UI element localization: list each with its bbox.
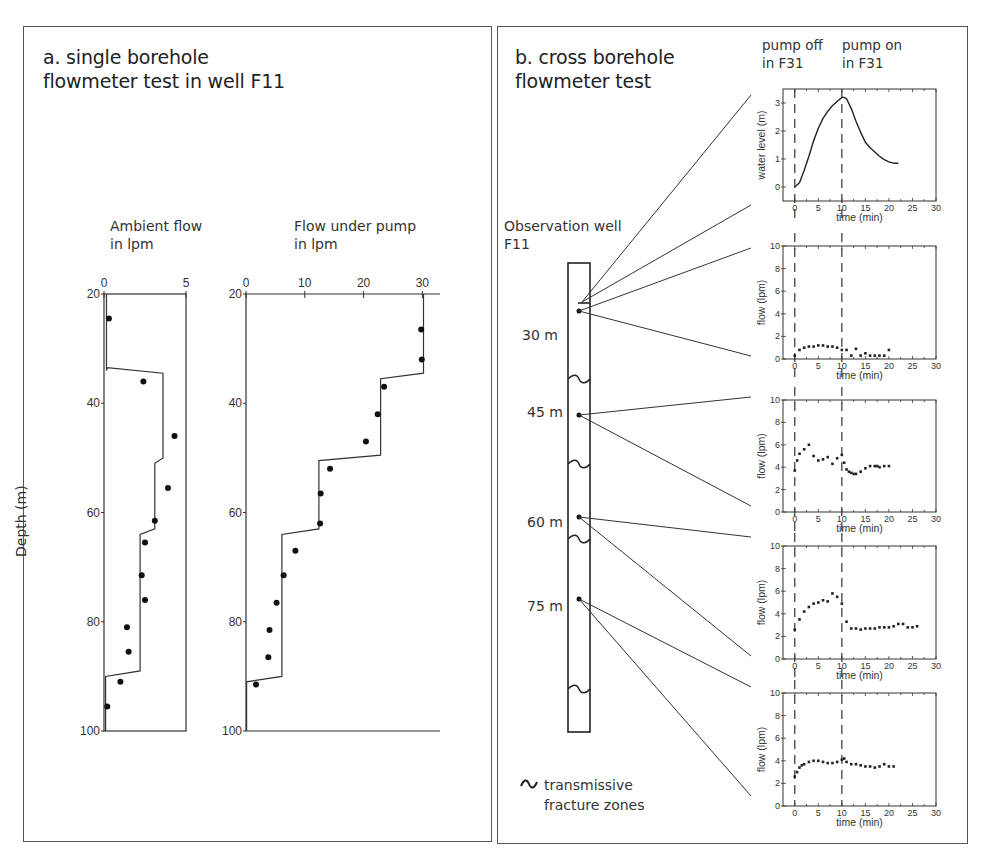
svg-text:4: 4 [775,609,780,619]
svg-text:10: 10 [770,241,780,251]
svg-text:0: 0 [775,182,780,192]
svg-text:100: 100 [80,724,100,738]
svg-text:25: 25 [907,808,917,818]
svg-text:60: 60 [87,506,101,520]
svg-text:5: 5 [816,203,821,213]
svg-text:4: 4 [775,309,780,319]
svg-text:25: 25 [907,514,917,524]
wave-icon [521,780,537,787]
svg-text:0: 0 [792,808,797,818]
figure-plots: 0520406080100 010203020406080100 0510152… [0,0,986,867]
svg-text:4: 4 [775,756,780,766]
svg-text:10: 10 [770,541,780,551]
svg-text:4: 4 [775,462,780,472]
svg-text:water level (m): water level (m) [755,111,767,181]
svg-text:30: 30 [931,514,941,524]
svg-text:time (min): time (min) [836,669,883,681]
svg-text:2: 2 [775,126,780,136]
flow-75m-chart: 0510152025300246810time (min)flow (lpm) [755,680,941,828]
svg-text:5: 5 [816,808,821,818]
svg-text:0: 0 [775,801,780,811]
svg-text:30: 30 [931,361,941,371]
svg-text:60: 60 [229,506,243,520]
svg-text:20: 20 [229,287,243,301]
svg-text:2: 2 [775,331,780,341]
svg-text:0: 0 [775,354,780,364]
svg-text:20: 20 [884,808,894,818]
svg-text:10: 10 [770,688,780,698]
ambient-flow-chart: 0520406080100 [80,276,190,738]
svg-text:25: 25 [907,361,917,371]
flow-30m-chart: 0510152025300246810time (min)flow (lpm) [755,233,941,381]
svg-text:time (min): time (min) [836,211,883,223]
svg-text:0: 0 [775,654,780,664]
flow-under-pump-chart: 010203020406080100 [222,276,440,738]
svg-text:20: 20 [87,287,101,301]
svg-text:40: 40 [87,396,101,410]
svg-text:8: 8 [775,711,780,721]
svg-text:6: 6 [775,440,780,450]
svg-text:30: 30 [416,276,430,290]
svg-text:6: 6 [775,586,780,596]
svg-text:10: 10 [298,276,312,290]
svg-text:5: 5 [816,514,821,524]
svg-text:5: 5 [183,276,190,290]
svg-text:0: 0 [101,276,108,290]
svg-text:flow (lpm): flow (lpm) [755,580,767,626]
svg-text:flow (lpm): flow (lpm) [755,727,767,773]
svg-text:20: 20 [884,514,894,524]
svg-text:25: 25 [907,203,917,213]
svg-text:2: 2 [775,778,780,788]
svg-text:0: 0 [775,507,780,517]
svg-text:10: 10 [770,395,780,405]
svg-text:30: 30 [931,203,941,213]
svg-text:2: 2 [775,485,780,495]
svg-text:80: 80 [229,615,243,629]
svg-text:3: 3 [775,98,780,108]
svg-text:20: 20 [357,276,371,290]
svg-text:2: 2 [775,631,780,641]
svg-text:1: 1 [775,154,780,164]
flow-60m-chart: 0510152025300246810time (min)flow (lpm) [755,533,941,681]
svg-text:time (min): time (min) [836,816,883,828]
svg-text:flow (lpm): flow (lpm) [755,280,767,326]
flow-45m-chart: 0510152025300246810time (min)flow (lpm) [755,387,941,534]
svg-text:8: 8 [775,564,780,574]
svg-text:5: 5 [816,661,821,671]
svg-text:6: 6 [775,286,780,296]
svg-text:20: 20 [884,203,894,213]
svg-text:20: 20 [884,661,894,671]
svg-text:0: 0 [243,276,250,290]
svg-text:5: 5 [816,361,821,371]
svg-text:time (min): time (min) [836,522,883,534]
svg-text:20: 20 [884,361,894,371]
svg-text:30: 30 [931,808,941,818]
svg-text:25: 25 [907,661,917,671]
svg-text:30: 30 [931,661,941,671]
svg-text:6: 6 [775,733,780,743]
svg-text:flow (lpm): flow (lpm) [755,433,767,479]
water-level-chart: 0510152025300123time (min)water level (m… [755,89,941,223]
svg-text:80: 80 [87,615,101,629]
svg-text:40: 40 [229,396,243,410]
svg-text:100: 100 [222,724,242,738]
svg-text:8: 8 [775,264,780,274]
svg-text:8: 8 [775,417,780,427]
observation-well-diagram [568,95,751,796]
svg-text:time (min): time (min) [836,369,883,381]
